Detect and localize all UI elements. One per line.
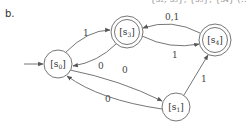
state-s4-accepting: [s4]: [199, 24, 231, 56]
edge-label-s4-s3: 0,1: [165, 12, 179, 22]
edge-s3-s0: [73, 44, 116, 66]
state-diagram: 1 0 1 0,1 0 0 1 [s0] [s3] [s4] [s1]: [0, 0, 246, 129]
state-s0: [s0]: [44, 50, 72, 78]
edge-s1-s0: [67, 76, 162, 109]
edge-label-s1-s0: 0: [105, 94, 111, 104]
edge-s3-s4: [142, 36, 199, 46]
edge-label-s3-s0: 0: [98, 61, 104, 71]
edge-label-s3-s4: 1: [172, 50, 178, 60]
svg-text:[s1]: [s1]: [168, 102, 183, 113]
edge-label-s0-s1: 0: [122, 65, 128, 75]
state-s1: [s1]: [162, 93, 190, 121]
svg-text:[s3]: [s3]: [119, 27, 134, 38]
state-s3-accepting: [s3]: [111, 16, 143, 48]
edge-label-s0-s3: 1: [83, 28, 89, 38]
svg-text:[s0]: [s0]: [50, 59, 65, 70]
edge-s4-s3: [143, 24, 200, 33]
svg-text:[s4]: [s4]: [207, 35, 222, 46]
edge-s0-s1: [70, 70, 162, 101]
edge-label-s1-s4: 1: [201, 74, 207, 84]
